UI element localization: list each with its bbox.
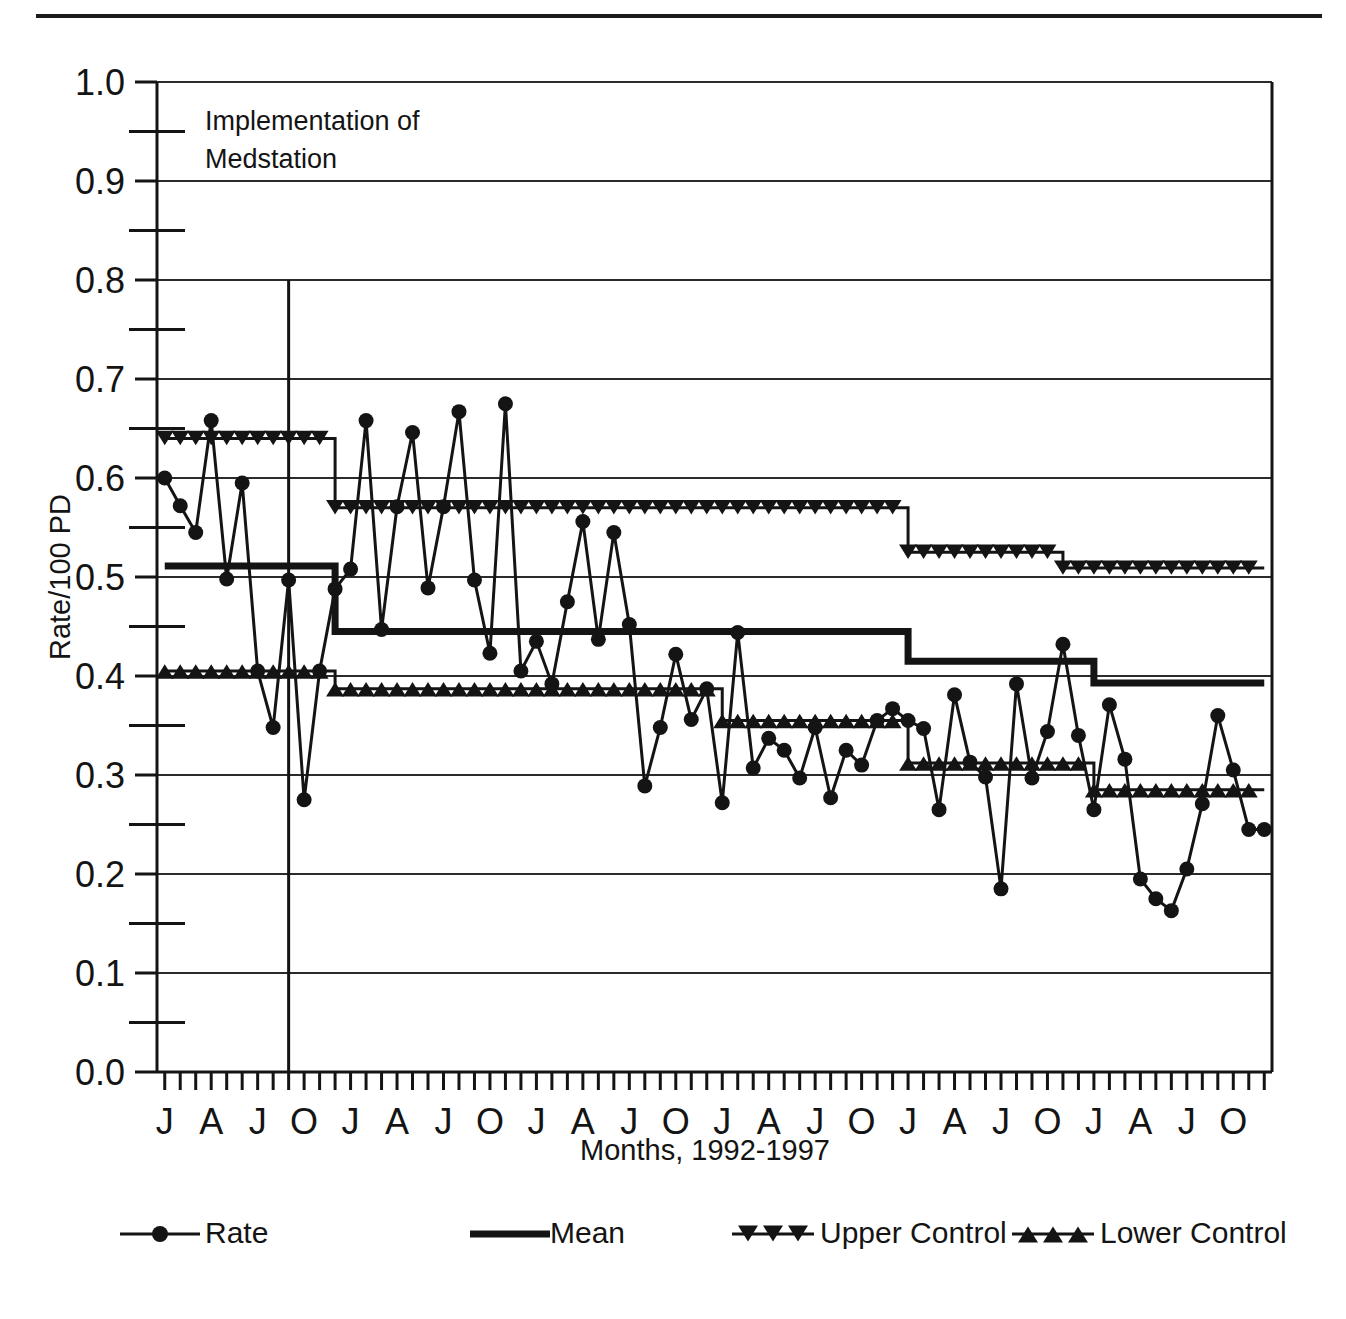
x-tick-label: J xyxy=(434,1101,452,1142)
series-layer xyxy=(156,396,1272,918)
x-tick-label: A xyxy=(943,1101,967,1142)
legend-item-mean[interactable]: Mean xyxy=(470,1216,625,1249)
legend: RateMeanUpper ControlLower Control xyxy=(120,1216,1287,1249)
legend-label: Rate xyxy=(205,1216,268,1249)
x-axis-title: Months, 1992-1997 xyxy=(580,1134,830,1166)
x-axis: JAJOJAJOJAJOJAJOJAJOJAJO xyxy=(156,1072,1265,1142)
y-tick-label: 0.4 xyxy=(75,656,125,697)
y-tick-label: 0.3 xyxy=(75,755,125,796)
y-tick-label: 0.9 xyxy=(75,161,125,202)
y-tick-label: 0.5 xyxy=(75,557,125,598)
annotation-text: Implementation of Medstation xyxy=(205,106,420,174)
y-tick-label: 0.0 xyxy=(75,1052,125,1093)
x-tick-label: A xyxy=(385,1101,409,1142)
series-rate xyxy=(157,396,1272,918)
series-upper-control xyxy=(156,431,1265,575)
x-tick-label: J xyxy=(249,1101,267,1142)
circle-marker xyxy=(120,1226,200,1242)
x-tick-label: J xyxy=(1085,1101,1103,1142)
x-tick-label: A xyxy=(199,1101,223,1142)
x-tick-label: O xyxy=(1219,1101,1247,1142)
x-tick-label: J xyxy=(527,1101,545,1142)
y-tick-label: 0.7 xyxy=(75,359,125,400)
x-tick-label: J xyxy=(899,1101,917,1142)
x-tick-label: O xyxy=(290,1101,318,1142)
down-triangle-marker xyxy=(732,1226,814,1242)
y-tick-label: 0.2 xyxy=(75,854,125,895)
x-tick-label: A xyxy=(1128,1101,1152,1142)
y-tick-label: 0.6 xyxy=(75,458,125,499)
svg-text:Rate/100 PD: Rate/100 PD xyxy=(44,494,76,660)
x-tick-label: J xyxy=(342,1101,360,1142)
x-tick-label: O xyxy=(476,1101,504,1142)
x-tick-label: J xyxy=(992,1101,1010,1142)
legend-label: Lower Control xyxy=(1100,1216,1287,1249)
x-tick-label: O xyxy=(848,1101,876,1142)
legend-label: Mean xyxy=(550,1216,625,1249)
y-tick-label: 1.0 xyxy=(75,62,125,103)
x-tick-label: J xyxy=(156,1101,174,1142)
legend-item-ucl[interactable]: Upper Control xyxy=(732,1216,1007,1249)
y-tick-label: 0.1 xyxy=(75,953,125,994)
annotation-line-1: Implementation of xyxy=(205,106,420,136)
y-axis-title: Rate/100 PD xyxy=(44,494,76,660)
legend-item-lcl[interactable]: Lower Control xyxy=(1012,1216,1287,1249)
annotation-line-2: Medstation xyxy=(205,144,337,174)
up-triangle-marker xyxy=(1012,1227,1094,1243)
x-tick-label: O xyxy=(1033,1101,1061,1142)
legend-item-rate[interactable]: Rate xyxy=(120,1216,268,1249)
legend-label: Upper Control xyxy=(820,1216,1007,1249)
y-axis: 0.00.10.20.30.40.50.60.70.80.91.0 xyxy=(75,62,1272,1093)
x-tick-label: J xyxy=(1178,1101,1196,1142)
control-chart-figure: Rate/100 PD 0.00.10.20.30.40.50.60.70.80… xyxy=(0,0,1346,1319)
control-chart-svg: Rate/100 PD 0.00.10.20.30.40.50.60.70.80… xyxy=(0,0,1346,1319)
y-tick-label: 0.8 xyxy=(75,260,125,301)
